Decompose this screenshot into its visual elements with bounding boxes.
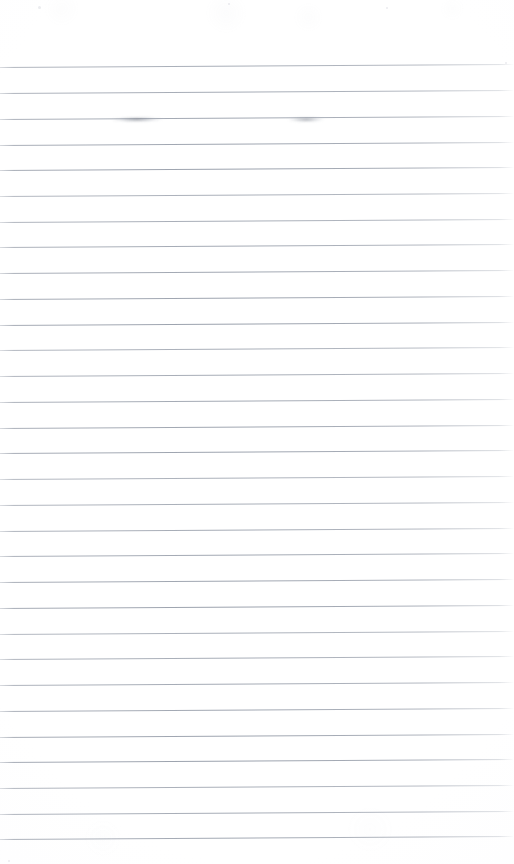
ruled-line <box>0 399 514 403</box>
scan-fleck <box>386 7 388 9</box>
ruled-line <box>0 193 514 197</box>
ruled-line <box>0 296 514 300</box>
ruled-line <box>0 734 514 738</box>
ruled-line <box>0 322 514 326</box>
ruled-line <box>0 90 514 94</box>
scan-fleck <box>8 860 10 862</box>
ruled-line <box>0 502 514 506</box>
ruled-line <box>0 450 514 454</box>
ruled-line <box>0 631 514 635</box>
ruled-line <box>0 811 514 815</box>
ruled-line <box>0 605 514 609</box>
scan-fleck <box>228 3 230 5</box>
scanned-page <box>0 0 514 864</box>
smudge-left <box>102 116 164 123</box>
ruled-line <box>0 682 514 686</box>
ruled-line <box>0 476 514 480</box>
ruled-line <box>0 167 514 171</box>
ruled-line <box>0 528 514 532</box>
scan-fleck <box>38 6 41 9</box>
ruled-line <box>0 270 514 274</box>
ruled-line <box>0 64 514 68</box>
ruled-line <box>0 244 514 248</box>
ruled-line <box>0 759 514 763</box>
ruled-line <box>0 836 514 840</box>
ruled-line <box>0 579 514 583</box>
ruled-line <box>0 656 514 660</box>
ruled-line <box>0 373 514 377</box>
ruled-line <box>0 347 514 351</box>
ruled-line <box>0 116 514 120</box>
ruled-line <box>0 708 514 712</box>
ruled-line <box>0 425 514 429</box>
ruled-line <box>0 142 514 146</box>
ruled-line <box>0 553 514 557</box>
ruled-lines-layer <box>0 0 514 864</box>
ruled-line <box>0 785 514 789</box>
ruled-line <box>0 219 514 223</box>
